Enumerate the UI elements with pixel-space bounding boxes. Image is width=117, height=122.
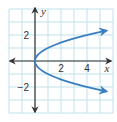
y-axis-label: y <box>40 5 46 17</box>
x-axis-label: x <box>104 62 110 74</box>
graph-plot: 2 4 2 −2 x y <box>0 0 117 122</box>
x-tick-4: 4 <box>84 63 90 74</box>
x-tick-2: 2 <box>58 63 64 74</box>
y-tick-neg2: −2 <box>18 82 30 93</box>
y-tick-2: 2 <box>23 30 29 41</box>
